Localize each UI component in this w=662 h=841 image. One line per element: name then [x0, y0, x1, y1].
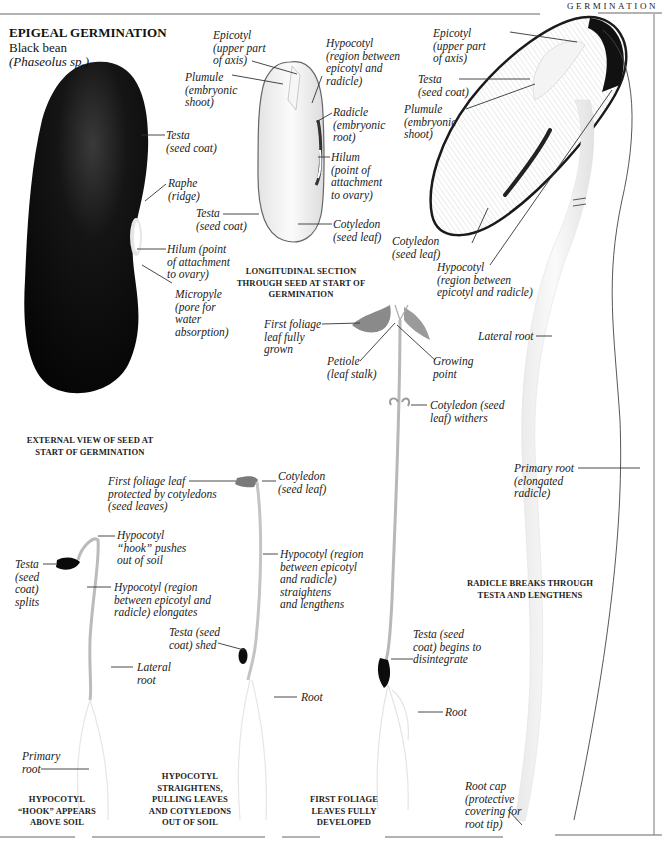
label-external-testa: Testa (seed coat): [166, 129, 217, 154]
label-sprout-epicotyl: Epicotyl (upper part of axis): [433, 27, 486, 65]
label-foliage-root: Root: [445, 706, 467, 719]
label-sprout-cotyledon: Cotyledon (seed leaf): [392, 235, 440, 260]
label-foliage-testa: Testa (seed coat) begins to disintegrate: [413, 628, 481, 666]
section-header: GERMINATION: [567, 1, 658, 11]
caption-foliage-stage: FIRST FOLIAGE LEAVES FULLY DEVELOPED: [300, 794, 388, 829]
label-section-hypocotyl: Hypocotyl (region between epicotyl and r…: [326, 37, 400, 87]
label-foliage-petiole: Petiole (leaf stalk): [327, 355, 377, 380]
label-section-epicotyl: Epicotyl (upper part of axis): [213, 29, 266, 67]
caption-longitudinal-section: LONGITUDINAL SECTION THROUGH SEED AT STA…: [226, 266, 376, 301]
footer-rules: [0, 835, 662, 837]
label-straight-cotyledon: Cotyledon (seed leaf): [278, 470, 326, 495]
germination-illustration: [0, 0, 662, 841]
title-common-name: Black bean: [9, 40, 67, 55]
label-sprout-testa: Testa (seed coat): [418, 73, 469, 98]
label-foliage-growing-point: Growing point: [433, 355, 473, 380]
label-foliage-first-leaf: First foliage leaf fully grown: [264, 318, 321, 356]
caption-external-view: EXTERNAL VIEW OF SEED AT START OF GERMIN…: [20, 435, 160, 458]
label-straight-foliage: First foliage leaf protected by cotyledo…: [108, 475, 217, 513]
diagram-title: EPIGEAL GERMINATION Black bean (Phaseolu…: [9, 26, 167, 70]
label-straight-root: Root: [301, 691, 323, 704]
caption-straightens-stage: HYPOCOTYL STRAIGHTENS, PULLING LEAVES AN…: [140, 771, 240, 829]
caption-hook-stage: HYPOCOTYL “HOOK” APPEARS ABOVE SOIL: [12, 794, 102, 829]
label-straight-testa-shed: Testa (seed coat) shed: [169, 626, 220, 651]
title-scientific-name: (Phaseolus sp.): [9, 54, 89, 69]
label-hook-hypocotyl: Hypocotyl (region between epicotyl and r…: [114, 581, 211, 619]
label-section-cotyledon: Cotyledon (seed leaf): [333, 218, 381, 243]
label-sprout-lateral-root: Lateral root: [478, 330, 533, 343]
primary-root: [515, 100, 594, 821]
label-section-testa: Testa (seed coat): [196, 207, 247, 232]
label-sprout-hypocotyl: Hypocotyl (region between epicotyl and r…: [437, 261, 533, 299]
label-external-micropyle: Micropyle (pore for water absorption): [175, 288, 229, 338]
straightening-seedling: [235, 476, 266, 820]
label-section-hilum: Hilum (point of attachment to ovary): [331, 151, 382, 201]
label-sprout-root-cap: Root cap (protective covering for root t…: [465, 780, 522, 830]
label-hook-lateral-root: Lateral root: [137, 661, 171, 686]
label-hook-hypocotyl-hook: Hypocotyl “hook” pushes out of soil: [117, 529, 186, 567]
label-external-hilum: Hilum (point of attachment to ovary): [167, 243, 230, 281]
label-hook-primary-root: Primary root: [22, 750, 60, 775]
caption-radicle-breaks: RADICLE BREAKS THROUGH TESTA AND LENGTHE…: [455, 578, 605, 601]
hook-seedling: [56, 539, 108, 820]
label-section-plumule: Plumule (embryonic shoot): [185, 71, 237, 109]
header-rules: [0, 13, 662, 14]
label-straight-hypocotyl: Hypocotyl (region between epicotyl and r…: [280, 548, 364, 611]
title-heading: EPIGEAL GERMINATION: [9, 25, 167, 40]
label-sprout-primary-root: Primary root (elongated radicle): [514, 462, 574, 500]
black-bean-seed: [24, 62, 148, 393]
label-hook-testa-splits: Testa (seed coat) splits: [15, 558, 39, 608]
label-foliage-cotyledon-withers: Cotyledon (seed leaf) withers: [430, 399, 504, 424]
label-external-raphe: Raphe (ridge): [168, 177, 200, 202]
label-section-radicle: Radicle (embryonic root): [333, 106, 385, 144]
label-sprout-plumule: Plumule (embryonic shoot): [404, 103, 456, 141]
